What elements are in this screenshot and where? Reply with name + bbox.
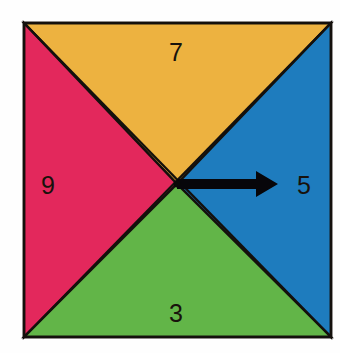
wedge-label-left: 9 bbox=[41, 171, 55, 199]
figure-canvas: 7 9 5 3 bbox=[0, 0, 340, 353]
wedge-label-top: 7 bbox=[169, 38, 183, 66]
pinwheel-square-figure: 7 9 5 3 bbox=[0, 0, 340, 353]
center-pivot-dot bbox=[174, 181, 181, 188]
wedge-label-bottom: 3 bbox=[169, 299, 183, 327]
wedge-label-right: 5 bbox=[297, 171, 311, 199]
